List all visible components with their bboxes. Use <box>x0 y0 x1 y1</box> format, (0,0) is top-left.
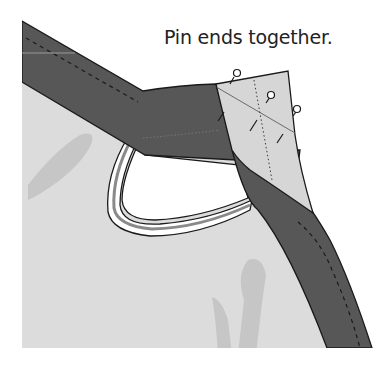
sewing-diagram <box>0 0 392 366</box>
pin-head-icon <box>268 92 275 99</box>
pin-head-icon <box>294 106 301 113</box>
instruction-caption: Pin ends together. <box>164 26 333 48</box>
illustration <box>0 0 392 366</box>
pin-head-icon <box>234 70 241 77</box>
